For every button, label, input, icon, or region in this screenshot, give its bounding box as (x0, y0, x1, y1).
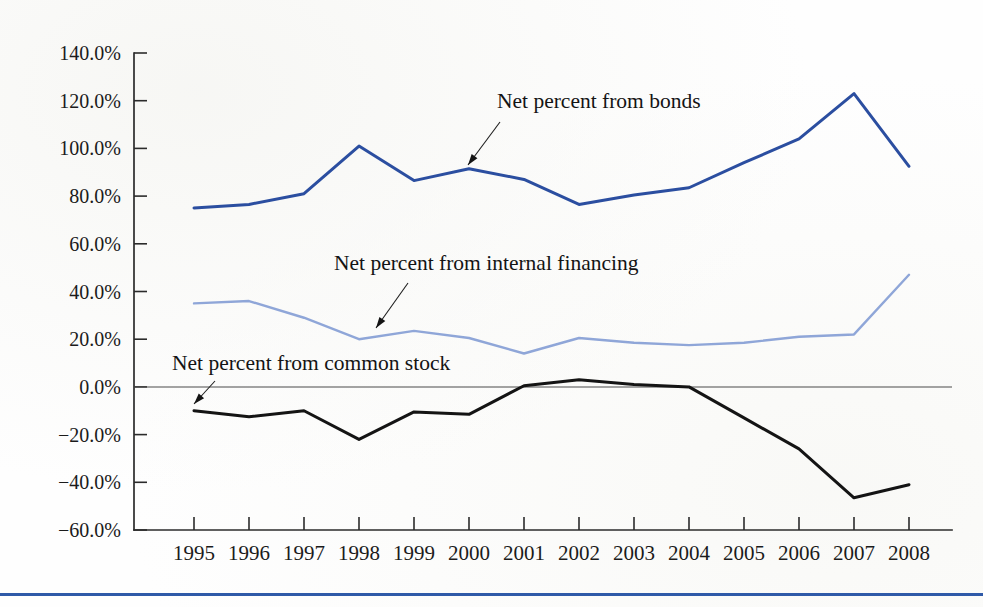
x-tick-label: 1995 (173, 541, 215, 565)
y-axis: 140.0%120.0%100.0%80.0%60.0%40.0%20.0%0.… (58, 42, 147, 541)
annotation-label-net-percent-from-common-stock: Net percent from common stock (172, 351, 450, 375)
x-tick-label: 2001 (503, 541, 545, 565)
y-tick-label: 140.0% (59, 42, 121, 64)
series-line-net-percent-from-internal-financing (194, 275, 909, 354)
footer-rule (0, 593, 983, 596)
series-line-net-percent-from-common-stock (194, 380, 909, 498)
x-axis-ticks (194, 517, 909, 530)
annotation-layer: Net percent from bondsNet percent from i… (172, 89, 701, 404)
annotation-label-net-percent-from-bonds: Net percent from bonds (497, 89, 701, 113)
x-tick-label: 2000 (448, 541, 490, 565)
x-tick-label: 1997 (283, 541, 325, 565)
x-tick-label: 2005 (723, 541, 765, 565)
annotation-arrowhead-net-percent-from-bonds (468, 154, 477, 165)
line-chart-svg: 140.0%120.0%100.0%80.0%60.0%40.0%20.0%0.… (0, 0, 983, 607)
y-axis-tick-labels: 140.0%120.0%100.0%80.0%60.0%40.0%20.0%0.… (58, 42, 121, 541)
y-tick-label: 20.0% (69, 328, 121, 350)
y-tick-label: −60.0% (58, 519, 121, 541)
y-tick-label: 40.0% (69, 281, 121, 303)
annotation-label-net-percent-from-internal-financing: Net percent from internal financing (334, 251, 639, 275)
x-tick-label: 1996 (228, 541, 270, 565)
y-tick-label: −20.0% (58, 424, 121, 446)
chart-figure: 140.0%120.0%100.0%80.0%60.0%40.0%20.0%0.… (0, 0, 983, 607)
x-tick-label: 2002 (558, 541, 600, 565)
x-tick-label: 2004 (668, 541, 711, 565)
x-tick-label: 2007 (833, 541, 875, 565)
y-tick-label: 0.0% (79, 376, 121, 398)
x-tick-label: 1998 (338, 541, 380, 565)
x-tick-label: 2003 (613, 541, 655, 565)
y-tick-label: 100.0% (59, 137, 121, 159)
x-tick-label: 2008 (888, 541, 930, 565)
x-axis: 1995199619971998199920002001200220032004… (134, 517, 952, 565)
y-tick-label: 80.0% (69, 185, 121, 207)
x-axis-tick-labels: 1995199619971998199920002001200220032004… (173, 541, 930, 565)
x-tick-label: 2006 (778, 541, 820, 565)
y-tick-label: 120.0% (59, 90, 121, 112)
x-tick-label: 1999 (393, 541, 435, 565)
y-axis-ticks (134, 53, 147, 530)
annotation-arrowhead-net-percent-from-internal-financing (376, 317, 385, 328)
y-tick-label: 60.0% (69, 233, 121, 255)
y-tick-label: −40.0% (58, 471, 121, 493)
series-layer (194, 94, 909, 498)
